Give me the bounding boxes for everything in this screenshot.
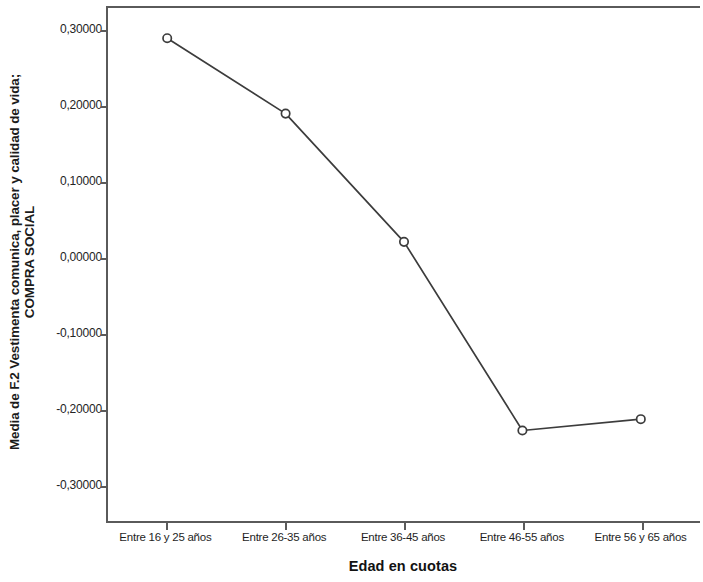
y-axis-tick-mark xyxy=(101,486,108,488)
y-axis-tick-mark xyxy=(101,258,108,260)
x-axis-tick-label: Entre 56 y 65 años xyxy=(595,531,687,543)
y-axis-tick-label: 0,10000 xyxy=(40,174,102,188)
series-line xyxy=(167,38,641,430)
x-axis-tick-label: Entre 36-45 años xyxy=(361,531,445,543)
data-point-marker xyxy=(163,34,171,42)
x-axis-tick-mark xyxy=(404,521,406,530)
y-axis-tick-mark xyxy=(101,334,108,336)
data-series-layer xyxy=(108,8,700,521)
y-axis-tick-label: 0,20000 xyxy=(40,98,102,112)
x-axis-title: Edad en cuotas xyxy=(106,558,700,574)
x-axis-tick-mark xyxy=(523,521,525,530)
x-axis-tick-mark xyxy=(166,521,168,530)
y-axis-tick-label: 0,30000 xyxy=(40,22,102,36)
series-markers xyxy=(163,34,645,435)
x-axis-tick-mark xyxy=(642,521,644,530)
y-axis-title-line-2: COMPRA SOCIAL xyxy=(22,73,37,449)
x-axis-tick-label: Entre 46-55 años xyxy=(480,531,564,543)
y-axis-tick-mark xyxy=(101,410,108,412)
y-axis-tick-label: -0,30000 xyxy=(40,478,102,492)
x-axis-tick-mark xyxy=(285,521,287,530)
plot-area xyxy=(106,6,700,523)
y-axis-tick-mark xyxy=(101,106,108,108)
x-axis-tick-labels: Entre 16 y 25 añosEntre 26-35 añosEntre … xyxy=(106,531,700,551)
y-axis-tick-labels: 0,300000,200000,100000,00000-0,10000-0,2… xyxy=(38,0,102,582)
y-axis-tick-label: -0,10000 xyxy=(40,326,102,340)
x-axis-tick-label: Entre 16 y 25 años xyxy=(119,531,211,543)
data-point-marker xyxy=(281,109,289,117)
y-axis-tick-label: -0,20000 xyxy=(40,402,102,416)
y-axis-title-line-1: Media de F.2 Vestimenta comunica, placer… xyxy=(7,73,22,449)
x-axis-tick-label: Entre 26-35 años xyxy=(242,531,326,543)
data-point-marker xyxy=(400,238,408,246)
data-point-marker xyxy=(637,415,645,423)
y-axis-tick-mark xyxy=(101,182,108,184)
y-axis-tick-mark xyxy=(101,30,108,32)
y-axis-tick-label: 0,00000 xyxy=(40,250,102,264)
line-chart-figure: Media de F.2 Vestimenta comunica, placer… xyxy=(0,0,703,582)
data-point-marker xyxy=(518,426,526,434)
